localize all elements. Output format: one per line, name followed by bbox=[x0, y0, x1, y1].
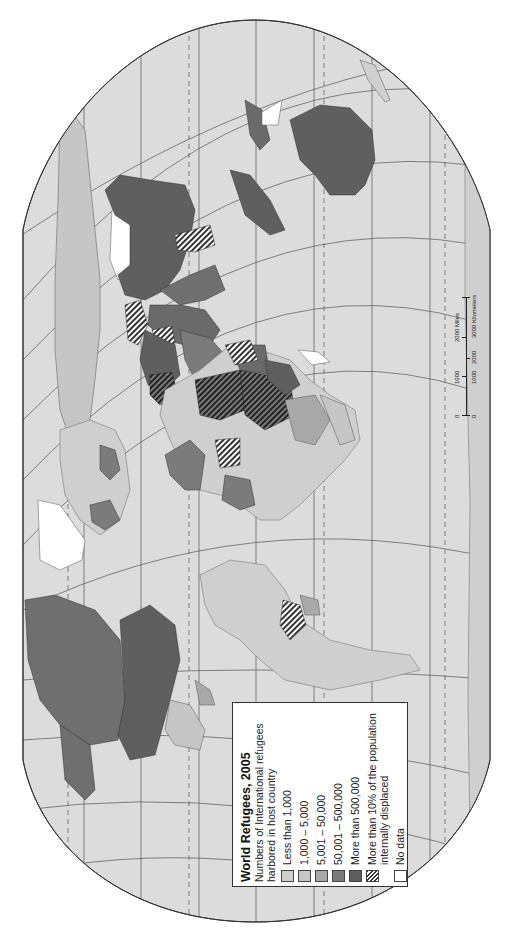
legend-label-line1: More than 10% of the population bbox=[366, 713, 378, 865]
miles-tick-1000: 1000 bbox=[454, 371, 460, 384]
swatch-no-data bbox=[394, 870, 407, 882]
legend-title: World Refugees, 2005 bbox=[239, 709, 253, 882]
legend-label: 5,001 – 50,000 bbox=[315, 795, 327, 865]
legend-item-internally-displaced: More than 10% of the population internal… bbox=[366, 709, 390, 882]
scale-tick bbox=[466, 358, 470, 359]
swatch-more-500000 bbox=[349, 870, 362, 882]
scale-tick bbox=[462, 415, 470, 416]
legend-item-1000-5000: 1,000 – 5,000 bbox=[298, 709, 311, 882]
legend-item-50001-500000: 50,001 – 500,000 bbox=[332, 709, 345, 882]
map-legend: World Refugees, 2005 Numbers of Internat… bbox=[232, 702, 408, 887]
legend-label: No data bbox=[394, 828, 406, 865]
scale-line bbox=[466, 298, 467, 416]
scale-bar: 0 1000 2000 Miles 0 1000 2000 3000 Kilom… bbox=[452, 272, 482, 422]
legend-label-line2: internally displaced bbox=[378, 776, 390, 865]
legend-label: 1,000 – 5,000 bbox=[298, 801, 310, 865]
swatch-50001-500000 bbox=[332, 870, 345, 882]
legend-item-more-500000: More than 500,000 bbox=[349, 709, 362, 882]
km-tick-0: 0 bbox=[471, 415, 477, 418]
legend-label: Less than 1,000 bbox=[281, 790, 293, 865]
legend-item-no-data: No data bbox=[394, 709, 407, 882]
scale-tick bbox=[462, 376, 466, 377]
swatch-5001-50000 bbox=[315, 870, 328, 882]
legend-subtitle-2: harbored in host country bbox=[265, 709, 277, 882]
swatch-hatch-icon bbox=[366, 870, 379, 882]
legend-label: 50,001 – 500,000 bbox=[332, 783, 344, 865]
legend-item-5001-50000: 5,001 – 50,000 bbox=[315, 709, 328, 882]
swatch-less-1000 bbox=[281, 870, 294, 882]
km-tick-1000: 1000 bbox=[471, 371, 477, 384]
legend-item-less-1000: Less than 1,000 bbox=[281, 709, 294, 882]
swatch-1000-5000 bbox=[298, 870, 311, 882]
scale-tick bbox=[462, 297, 470, 298]
legend-label: More than 500,000 bbox=[349, 777, 361, 865]
scale-tick bbox=[462, 337, 466, 338]
km-tick-2000: 2000 bbox=[471, 351, 477, 364]
miles-label: 2000 Miles bbox=[454, 313, 460, 342]
km-label: 3000 Kilometers bbox=[471, 295, 477, 338]
miles-tick-0: 0 bbox=[454, 415, 460, 418]
legend-label: More than 10% of the population internal… bbox=[366, 713, 390, 865]
legend-subtitle-1: Numbers of International refugees bbox=[253, 709, 265, 882]
